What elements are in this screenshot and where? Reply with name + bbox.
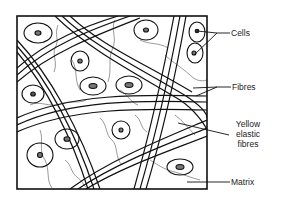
label-matrix: Matrix	[231, 177, 254, 187]
cell	[167, 159, 193, 175]
cell	[116, 76, 142, 94]
label-yellow-elastic-fibres: Yellow elastic fibres	[228, 119, 268, 149]
label-fibres: Fibres	[232, 82, 256, 92]
label-cells: Cells	[231, 28, 250, 38]
cell	[80, 77, 106, 95]
cell	[71, 51, 89, 71]
cells	[22, 20, 205, 175]
cell	[27, 143, 53, 167]
label-yellow-line2: elastic	[228, 129, 268, 139]
cell	[134, 20, 158, 40]
cell	[22, 85, 44, 103]
cell	[187, 43, 203, 63]
cell	[24, 23, 52, 43]
label-yellow-line1: Yellow	[228, 119, 268, 129]
cell	[112, 121, 130, 139]
label-yellow-line3: fibres	[228, 139, 268, 149]
